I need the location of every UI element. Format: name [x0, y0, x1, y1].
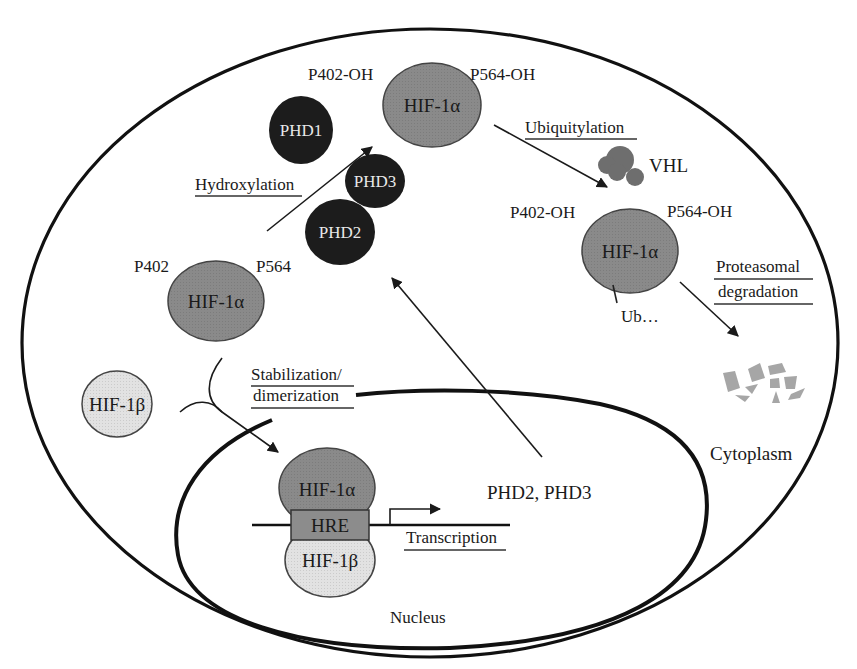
svg-text:dimerization: dimerization: [253, 386, 339, 405]
nucleus-label: Nucleus: [390, 608, 446, 627]
cytoplasm-label: Cytoplasm: [710, 443, 793, 464]
stabilization-label: Stabilization/: [251, 365, 342, 384]
svg-text:HIF-1α: HIF-1α: [404, 95, 460, 116]
vhl-complex: VHL: [598, 146, 688, 186]
svg-text:HIF-1β: HIF-1β: [302, 550, 358, 571]
dimerization-branch: [180, 402, 222, 412]
hydroxylation-label: Hydroxylation: [195, 175, 295, 194]
svg-text:P402-OH: P402-OH: [510, 203, 575, 222]
svg-text:PHD3: PHD3: [354, 172, 397, 191]
hif1a-ubiquitylated: HIF-1α P402-OH P564-OH Ub…: [510, 202, 732, 326]
feedback-arrow: [392, 278, 542, 457]
svg-text:HIF-1α: HIF-1α: [299, 479, 355, 500]
svg-text:HRE: HRE: [311, 515, 349, 536]
hif1b-free: HIF-1β: [82, 371, 152, 437]
hif-pathway-diagram: Cytoplasm Nucleus HIF-1α P402 P564 HIF-1…: [0, 0, 857, 669]
svg-text:Ub…: Ub…: [621, 307, 659, 326]
hre-element: HRE: [291, 510, 369, 540]
svg-text:P402: P402: [134, 257, 169, 276]
svg-text:P402-OH: P402-OH: [308, 65, 373, 84]
ubiquitylation-label: Ubiquitylation: [525, 118, 625, 137]
proteasomal-label: Proteasomal: [716, 257, 800, 276]
phd1-enzyme: PHD1: [269, 96, 333, 164]
svg-text:P564-OH: P564-OH: [667, 202, 732, 221]
hif1a-hydroxylated: HIF-1α P402-OH P564-OH: [308, 63, 535, 147]
svg-text:P564: P564: [256, 257, 291, 276]
svg-text:degradation: degradation: [718, 282, 799, 301]
svg-text:VHL: VHL: [649, 155, 688, 176]
phd2-enzyme: PHD2: [305, 199, 375, 265]
svg-text:P564-OH: P564-OH: [470, 65, 535, 84]
svg-text:HIF-1β: HIF-1β: [89, 394, 145, 415]
degraded-fragments-icon: [723, 363, 805, 403]
hif1a-unmodified: HIF-1α P402 P564: [134, 257, 291, 341]
svg-text:PHD2: PHD2: [319, 223, 362, 242]
svg-text:PHD1: PHD1: [280, 121, 323, 140]
svg-text:HIF-1α: HIF-1α: [602, 241, 658, 262]
gene-products-label: PHD2, PHD3: [487, 482, 592, 503]
svg-text:HIF-1α: HIF-1α: [188, 291, 244, 312]
transcription-start-arrow: [390, 509, 440, 525]
transcription-label: Transcription: [406, 528, 497, 547]
